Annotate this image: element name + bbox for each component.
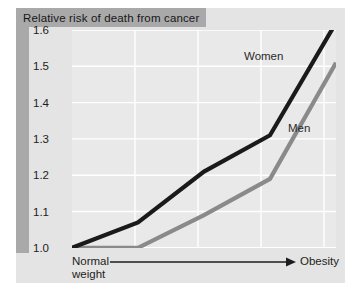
plot-area [72,30,336,248]
y-tick-label-6: 1.1 [33,206,67,218]
y-tick-label-2: 1.5 [33,60,67,72]
y-tick-label-7: 1.0 [33,242,67,254]
left-accent-band [16,8,29,253]
plot-svg [72,30,336,248]
page-title: Relative risk of death from cancer [23,12,199,24]
series-label-women: Women [244,50,283,62]
x-axis-arrow-icon [110,255,298,271]
y-tick-label-4: 1.3 [33,133,67,145]
series-label-men: Men [288,122,310,134]
x-axis-label-left: Normal weight [72,255,109,281]
x-axis-label-right: Obesity [300,255,339,267]
y-tick-label-5: 1.2 [33,169,67,181]
x-axis-label-left-line2: weight [72,268,109,281]
chart-figure: Relative risk of death from cancer 1.6 1… [0,0,351,293]
y-tick-label-1: 1.6 [33,24,67,36]
x-axis-label-left-line1: Normal [72,255,109,268]
y-tick-label-3: 1.4 [33,97,67,109]
